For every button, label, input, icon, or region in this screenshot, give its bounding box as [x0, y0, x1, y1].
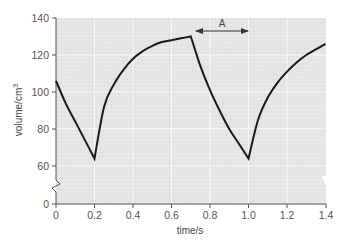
x-tick-1.0: 1.0: [241, 209, 256, 221]
x-tick-1.2: 1.2: [280, 209, 295, 221]
x-axis-label: time/s: [177, 225, 204, 236]
y-tick-120: 120: [31, 49, 49, 61]
y-axis-label-superscript: 3: [12, 84, 19, 88]
y-tick-140: 140: [31, 12, 49, 24]
volume-time-chart: 140 120 100 80 60 0 0 0.2 0.4 0.6 0.8 1.…: [0, 0, 345, 248]
y-axis-label: volume/cm3: [12, 84, 24, 136]
y-tick-0: 0: [43, 198, 49, 210]
x-tick-0.6: 0.6: [164, 209, 179, 221]
x-tick-labels: 0 0.2 0.4 0.6 0.8 1.0 1.2 1.4: [53, 209, 333, 221]
y-tick-60: 60: [37, 160, 49, 172]
x-tick-0.2: 0.2: [87, 209, 102, 221]
x-tick-1.4: 1.4: [319, 209, 334, 221]
annotation-label-a: A: [219, 18, 226, 29]
y-axis-label-base: volume/cm: [13, 88, 24, 136]
y-tick-80: 80: [37, 123, 49, 135]
plot-grid: [56, 18, 326, 204]
y-tick-100: 100: [31, 86, 49, 98]
x-tick-0: 0: [53, 209, 59, 221]
x-axis: [56, 204, 326, 208]
y-tick-labels: 140 120 100 80 60 0: [31, 12, 49, 210]
x-tick-0.8: 0.8: [203, 209, 218, 221]
x-tick-0.4: 0.4: [126, 209, 141, 221]
